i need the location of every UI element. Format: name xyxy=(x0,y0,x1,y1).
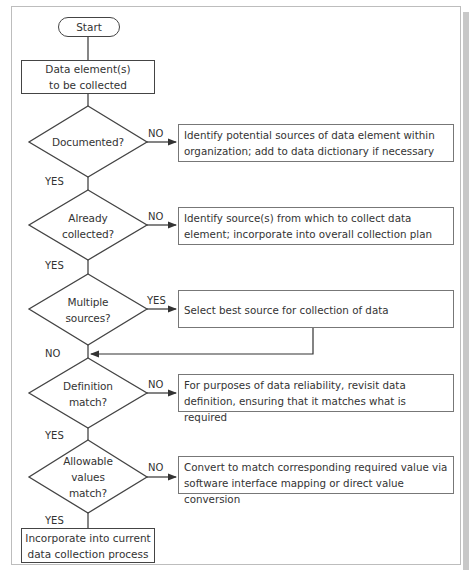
input-box: Data element(s) to be collected xyxy=(21,60,155,94)
decision-multiple-sources-text: Multiple sources? xyxy=(38,294,138,326)
decision-already-collected-text: Already collected? xyxy=(38,210,138,242)
input-line2: to be collected xyxy=(49,77,127,93)
decision-allowable-values-text: Allowable values match? xyxy=(38,453,138,501)
input-line1: Data element(s) xyxy=(45,61,130,77)
label-documented-yes: YES xyxy=(45,176,64,187)
action-revisit-definition: For purposes of data reliability, revisi… xyxy=(178,374,454,412)
label-already-collected-yes: YES xyxy=(45,260,64,271)
end-line1: Incorporate into current xyxy=(25,530,150,546)
label-definition-match-yes: YES xyxy=(45,430,64,441)
label-allowable-values-yes: YES xyxy=(45,515,64,526)
action-identify-potential-sources: Identify potential sources of data eleme… xyxy=(178,124,454,162)
label-already-collected-no: NO xyxy=(148,211,163,222)
label-multiple-sources-yes: YES xyxy=(147,295,166,306)
end-box: Incorporate into current data collection… xyxy=(21,528,155,563)
start-terminal: Start xyxy=(58,17,120,37)
label-definition-match-no: NO xyxy=(148,379,163,390)
end-line2: data collection process xyxy=(27,546,148,562)
decision-documented-text: Documented? xyxy=(38,134,138,150)
decision-definition-match-text: Definition match? xyxy=(38,378,138,410)
label-multiple-sources-no: NO xyxy=(45,348,60,359)
label-allowable-values-no: NO xyxy=(148,462,163,473)
action-identify-sources: Identify source(s) from which to collect… xyxy=(178,207,454,245)
action-select-best-source: Select best source for collection of dat… xyxy=(178,290,454,328)
label-documented-no: NO xyxy=(148,128,163,139)
start-label: Start xyxy=(76,21,102,33)
action-convert-values: Convert to match corresponding required … xyxy=(178,456,454,494)
